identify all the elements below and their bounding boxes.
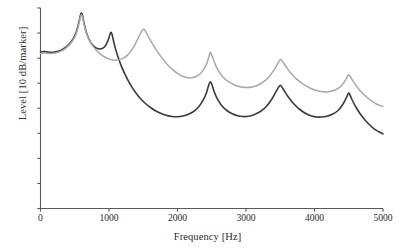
spectrum-line-chart xyxy=(0,0,415,251)
x-axis-tick-label: 2000 xyxy=(168,212,187,223)
data-series-group xyxy=(41,13,384,134)
series-line-light-gray-curve xyxy=(41,15,384,107)
axis-lines xyxy=(41,8,384,209)
chart-figure: Level [10 dB/marker] Frequency [Hz] 0100… xyxy=(0,0,415,251)
x-axis-tick-label: 0 xyxy=(38,212,43,223)
y-axis-label: Level [10 dB/marker] xyxy=(17,0,28,164)
x-axis-tick-label: 3000 xyxy=(236,212,255,223)
series-line-dark-curve xyxy=(41,13,384,134)
x-axis-label: Frequency [Hz] xyxy=(0,231,415,242)
x-axis-tick-label: 5000 xyxy=(373,212,392,223)
x-axis-tick-label: 4000 xyxy=(305,212,324,223)
x-axis-tick-label: 1000 xyxy=(99,212,118,223)
